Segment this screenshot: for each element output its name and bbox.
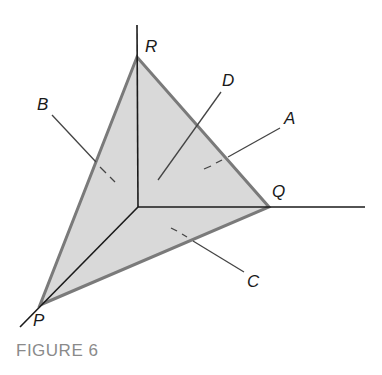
vertex-label-p: P bbox=[33, 312, 44, 329]
tetrahedron-diagram bbox=[0, 0, 382, 375]
face-pqr bbox=[40, 57, 269, 305]
vertex-label-r: R bbox=[145, 38, 157, 55]
leader-c bbox=[193, 241, 244, 272]
figure-caption: FIGURE 6 bbox=[16, 342, 98, 359]
region-label-d: D bbox=[222, 72, 234, 89]
region-label-a: A bbox=[284, 110, 295, 127]
vertex-label-q: Q bbox=[272, 183, 285, 200]
leader-b bbox=[52, 115, 96, 162]
leader-a bbox=[228, 128, 280, 157]
region-label-b: B bbox=[37, 96, 48, 113]
axis-r bbox=[137, 25, 138, 207]
region-label-c: C bbox=[247, 273, 259, 290]
